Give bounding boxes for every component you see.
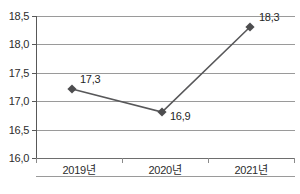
data-point-marker-2019 bbox=[67, 85, 76, 94]
series-line bbox=[72, 27, 250, 112]
data-label-2020: 16,9 bbox=[170, 110, 190, 122]
data-label-2021: 18,3 bbox=[259, 11, 279, 23]
data-label-2019: 17,3 bbox=[80, 73, 100, 85]
caption-strip: ​ bbox=[0, 182, 300, 194]
data-series bbox=[0, 0, 300, 178]
chart-screenshot: 18,5 18,0 17,5 17,0 16,5 16,0 2019년 2020… bbox=[0, 0, 300, 194]
line-chart: 18,5 18,0 17,5 17,0 16,5 16,0 2019년 2020… bbox=[0, 0, 300, 178]
